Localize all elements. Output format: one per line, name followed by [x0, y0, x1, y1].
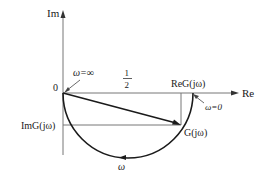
g-vector-arrow-icon	[172, 120, 181, 126]
half-denominator: 2	[125, 80, 130, 90]
origin-label: 0	[53, 82, 58, 93]
half-numerator: 1	[125, 68, 130, 78]
real-axis-label: Re	[242, 87, 254, 99]
real-axis-arrow-icon	[231, 91, 239, 96]
nyquist-diagram: Im Re 0 ω=∞ 1 2 ReG(jω) ω=0 ImG(jω) G(jω…	[0, 0, 264, 172]
omega-direction-label: ω	[118, 161, 125, 172]
omega-zero-label: ω=0	[205, 102, 222, 112]
omega-inf-label: ω=∞	[73, 67, 94, 78]
imag-axis-label: Im	[47, 7, 60, 19]
im-g-label: ImG(jω)	[21, 120, 55, 132]
imag-axis-arrow-icon	[61, 10, 66, 18]
omega-inf-leader-arrow-icon	[64, 87, 70, 93]
direction-arrow-icon	[119, 155, 126, 160]
g-vector	[63, 93, 176, 123]
re-g-label: ReG(jω)	[171, 78, 205, 90]
g-point-label: G(jω)	[184, 127, 207, 139]
